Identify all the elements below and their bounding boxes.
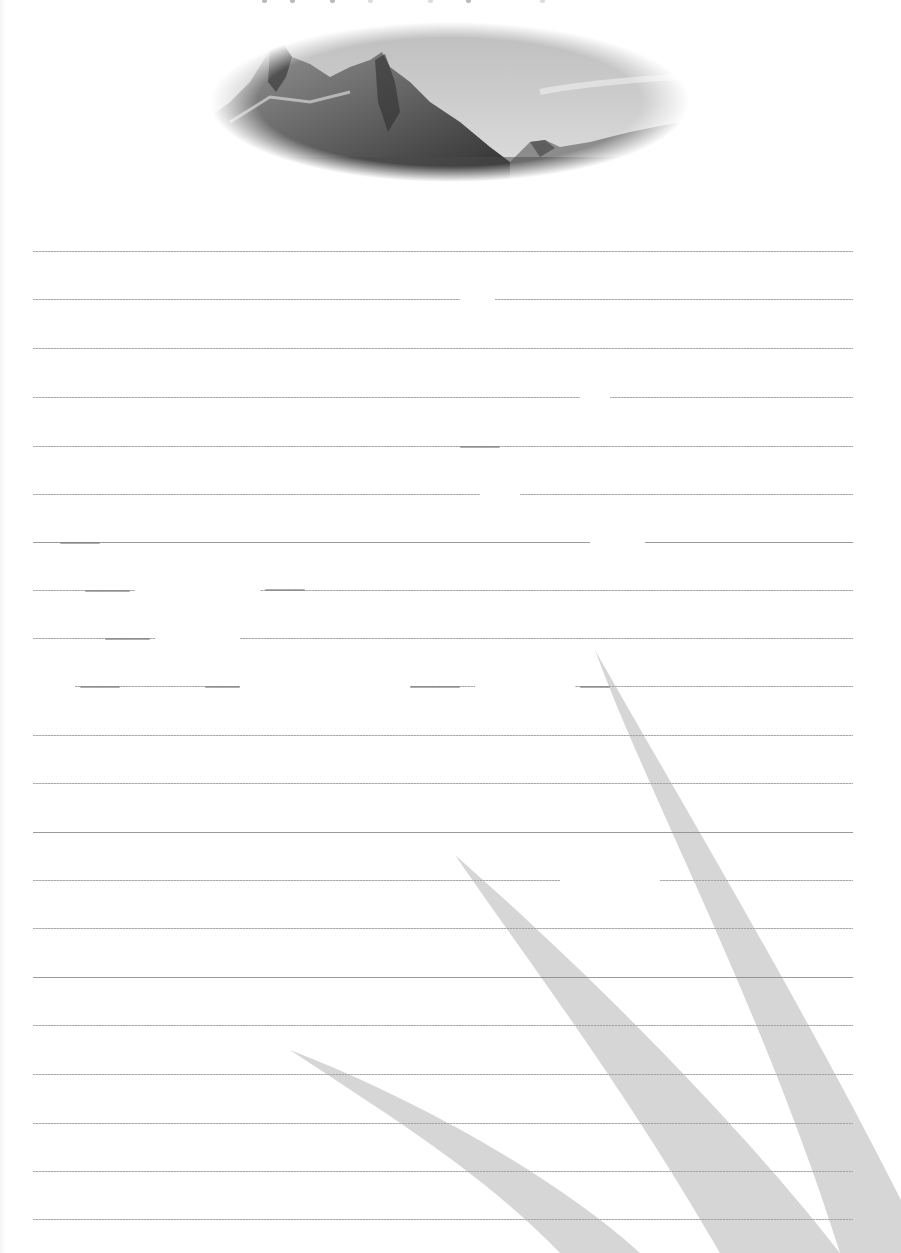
ruled-line — [33, 1025, 853, 1026]
ruled-lines — [0, 0, 901, 1253]
line-gap — [580, 396, 610, 399]
ruled-line — [33, 1219, 853, 1220]
ruled-line — [33, 348, 853, 349]
line-smudge — [80, 686, 120, 688]
line-smudge — [460, 446, 500, 448]
ruled-line — [33, 397, 853, 398]
line-smudge — [410, 686, 460, 688]
line-gap — [240, 685, 410, 688]
line-smudge — [60, 542, 100, 544]
ruled-line — [33, 928, 853, 929]
ruled-line — [33, 880, 853, 881]
ruled-line — [33, 977, 853, 978]
line-gap — [135, 589, 260, 592]
ruled-line — [33, 1123, 853, 1124]
ruled-line — [33, 783, 853, 784]
line-smudge — [105, 638, 150, 640]
ruled-line — [33, 299, 853, 300]
line-smudge — [580, 686, 610, 688]
ruled-line — [33, 832, 853, 833]
stationery-page — [0, 0, 901, 1253]
line-smudge — [265, 589, 305, 591]
line-gap — [480, 493, 520, 496]
line-smudge — [85, 590, 130, 592]
line-smudge — [205, 686, 240, 688]
line-gap — [155, 637, 240, 640]
line-gap — [33, 685, 75, 688]
ruled-line — [33, 446, 853, 447]
line-gap — [475, 685, 575, 688]
ruled-line — [33, 494, 853, 495]
ruled-line — [33, 1171, 853, 1172]
line-gap — [560, 879, 660, 882]
line-gap — [460, 298, 495, 301]
ruled-line — [33, 735, 853, 736]
ruled-line — [33, 542, 853, 543]
ruled-line — [33, 1074, 853, 1075]
ruled-line — [33, 251, 853, 252]
line-gap — [590, 541, 645, 544]
